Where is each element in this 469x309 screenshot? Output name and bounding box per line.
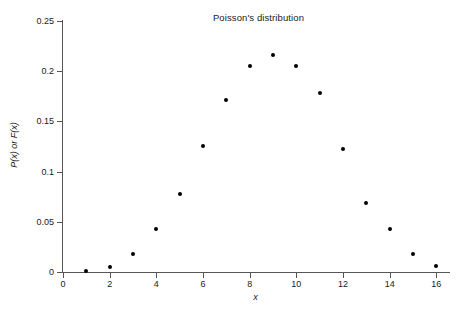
x-axis-line — [62, 272, 450, 273]
x-axis-tick — [343, 273, 344, 278]
y-axis-tick — [57, 222, 62, 223]
x-axis-tick — [110, 273, 111, 278]
data-point — [364, 201, 368, 205]
x-axis-tick-label: 10 — [281, 279, 311, 289]
data-point — [271, 53, 275, 57]
data-point — [108, 265, 112, 269]
y-axis-title: P(x) or F(x) — [9, 105, 19, 185]
x-axis-tick — [63, 273, 64, 278]
data-point — [434, 264, 438, 268]
data-point — [201, 144, 205, 148]
plot-area — [63, 21, 448, 272]
x-axis-tick-label: 6 — [188, 279, 218, 289]
y-axis-tick — [57, 172, 62, 173]
y-axis-tick-label: 0 — [8, 267, 54, 277]
data-point — [388, 227, 392, 231]
y-axis-tick-label: 0.05 — [8, 217, 54, 227]
data-point — [318, 91, 322, 95]
data-point — [411, 252, 415, 256]
x-axis-tick — [390, 273, 391, 278]
data-point — [341, 147, 345, 151]
x-axis-tick-label: 14 — [375, 279, 405, 289]
x-axis-tick — [156, 273, 157, 278]
x-axis-tick-label: 16 — [421, 279, 451, 289]
x-axis-tick — [296, 273, 297, 278]
x-axis-tick — [250, 273, 251, 278]
x-axis-title: x — [63, 292, 448, 302]
x-axis-tick-label: 4 — [141, 279, 171, 289]
x-axis-tick — [203, 273, 204, 278]
data-point — [178, 192, 182, 196]
data-point — [294, 64, 298, 68]
data-point — [131, 252, 135, 256]
data-point — [154, 227, 158, 231]
data-point — [224, 98, 228, 102]
x-axis-tick-label: 0 — [48, 279, 78, 289]
y-axis-tick — [57, 121, 62, 122]
x-axis-tick — [436, 273, 437, 278]
y-axis-tick — [57, 21, 62, 22]
x-axis-tick-label: 2 — [95, 279, 125, 289]
x-axis-tick-label: 12 — [328, 279, 358, 289]
y-axis-tick — [57, 71, 62, 72]
y-axis-tick-label: 0.2 — [8, 66, 54, 76]
chart-figure: Poisson's distribution 00.050.10.150.20.… — [0, 0, 469, 309]
y-axis-tick-label: 0.25 — [8, 16, 54, 26]
x-axis-tick-label: 8 — [235, 279, 265, 289]
y-axis-tick — [57, 272, 62, 273]
data-point — [248, 64, 252, 68]
